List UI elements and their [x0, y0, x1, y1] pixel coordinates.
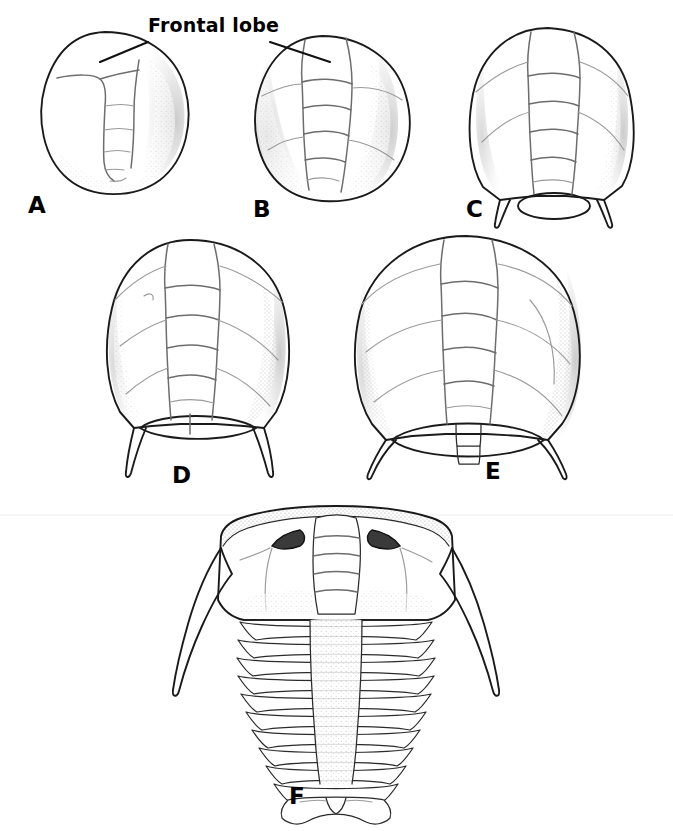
figure-plate: Frontal lobe A B C D E F — [0, 0, 673, 831]
genal-spine-left-c — [495, 200, 510, 228]
specimen-f — [173, 506, 499, 824]
genal-spine-left-d — [126, 428, 146, 477]
genal-spine-right-c — [597, 200, 612, 228]
specimen-b — [255, 36, 410, 201]
genal-spine-right-d — [253, 428, 273, 477]
panel-letter-d: D — [172, 462, 192, 488]
genal-spine-right-e — [538, 440, 567, 479]
genal-spine-left-e — [367, 440, 396, 479]
panel-letter-c: C — [466, 196, 483, 222]
illustration-canvas — [0, 0, 673, 831]
panel-letter-b: B — [253, 196, 271, 222]
specimen-d — [107, 240, 289, 477]
specimen-c — [470, 28, 634, 228]
panel-letter-a: A — [28, 192, 46, 218]
panel-letter-e: E — [485, 458, 501, 484]
panel-letter-f: F — [289, 783, 305, 809]
specimen-e — [355, 236, 581, 479]
frontal-lobe-label: Frontal lobe — [148, 14, 279, 36]
